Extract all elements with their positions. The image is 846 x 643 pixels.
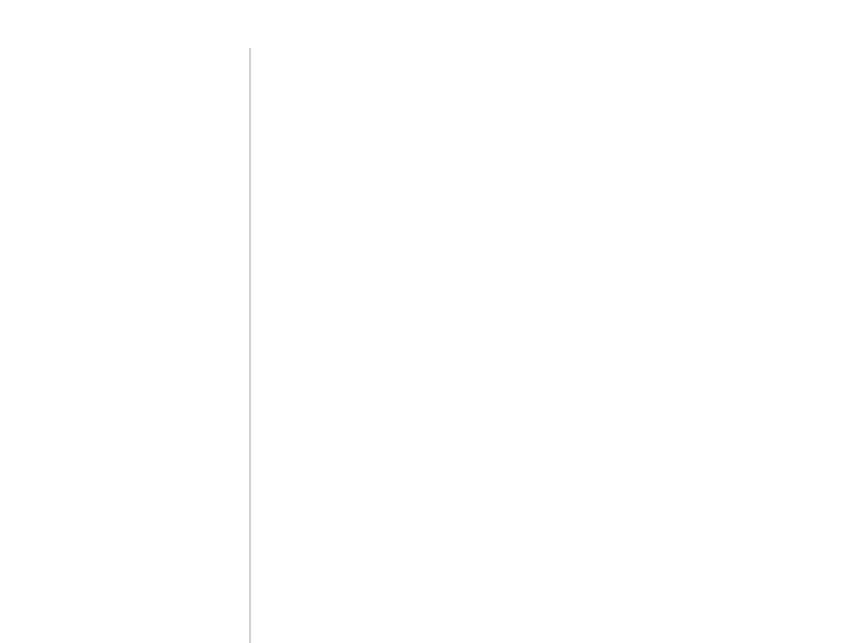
chart-legend xyxy=(0,0,846,48)
stacked-bar-chart xyxy=(0,48,846,643)
category-axis-line xyxy=(249,48,251,643)
